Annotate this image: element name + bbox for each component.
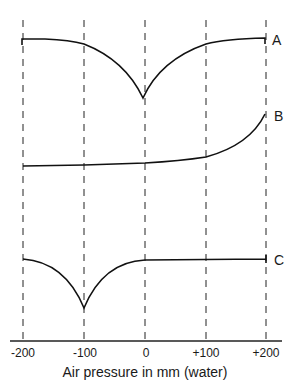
curve-a	[22, 38, 265, 98]
tick-label-0: 0	[143, 346, 150, 360]
tick-label-p100: +100	[192, 346, 219, 360]
grid-lines	[23, 20, 266, 341]
chart: A B C -200 -100 0 +100 +200 Air pressure…	[0, 0, 303, 384]
curve-b-label: B	[274, 108, 283, 124]
x-axis-label: Air pressure in mm (water)	[63, 364, 228, 380]
tick-label-m100: -100	[73, 346, 97, 360]
curve-a-label: A	[272, 32, 282, 48]
curve-c-label: C	[274, 252, 284, 268]
tick-label-m200: -200	[11, 346, 35, 360]
curve-b	[23, 114, 265, 166]
tick-label-p200: +200	[252, 346, 279, 360]
